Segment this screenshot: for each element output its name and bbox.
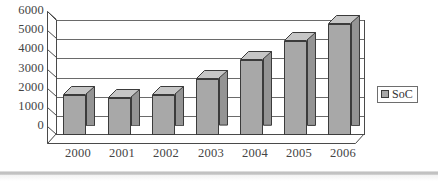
y-axis-tick-mark: [47, 126, 57, 135]
y-axis-tick-mark: [47, 30, 57, 39]
x-axis-tick-labels: 2000200120022003200420052006: [47, 146, 367, 166]
bar-top-face: [63, 86, 95, 95]
x-axis-tick-label: 2005: [286, 146, 312, 160]
bar-slot: [63, 11, 86, 135]
chart-legend: SoC: [377, 86, 418, 103]
bar-2005[interactable]: [284, 32, 307, 135]
y-axis-tick-label: 4000: [0, 42, 44, 54]
bar-slot: [108, 11, 131, 135]
y-axis-tick-mark: [47, 11, 57, 20]
bar-2004[interactable]: [240, 51, 263, 135]
chart-figure: 0100020003000400050006000 20002001200220…: [0, 0, 438, 181]
x-axis-tick-label: 2000: [65, 146, 91, 160]
y-axis-tick-label: 6000: [0, 4, 44, 16]
x-axis-tick-label: 2003: [198, 146, 224, 160]
bar-2001[interactable]: [108, 89, 131, 135]
bar-top-face: [196, 70, 228, 79]
bar-side-face: [263, 51, 272, 126]
y-axis-tick-label: 2000: [0, 81, 44, 93]
bar-slot: [328, 11, 351, 135]
bar-slot: [196, 11, 219, 135]
y-axis-tick-mark: [47, 107, 57, 116]
bar-front-face: [196, 79, 219, 135]
bar-2000[interactable]: [63, 86, 86, 135]
bar-front-face: [328, 24, 351, 135]
y-axis-tick-mark: [47, 49, 57, 58]
y-axis-tick-label: 0: [0, 119, 44, 131]
footer-separator-fade: [0, 175, 438, 181]
bar-top-face: [328, 15, 360, 24]
bar-front-face: [63, 95, 86, 135]
bar-2003[interactable]: [196, 70, 219, 135]
bar-top-face: [240, 51, 272, 60]
bar-slot: [240, 11, 263, 135]
legend-swatch-icon: [381, 90, 389, 98]
bar-front-face: [152, 95, 175, 135]
bar-top-face: [108, 89, 140, 98]
x-axis-tick-label: 2002: [153, 146, 179, 160]
bar-slot: [284, 11, 307, 135]
bar-slot: [152, 11, 175, 135]
plot-area: [47, 11, 365, 144]
y-axis-tick-mark: [47, 69, 57, 78]
bar-2002[interactable]: [152, 86, 175, 135]
bar-side-face: [351, 15, 360, 126]
bar-top-face: [284, 32, 316, 41]
y-axis-tick-mark: [47, 88, 57, 97]
x-axis-tick-label: 2004: [242, 146, 268, 160]
y-axis-tick-labels: 0100020003000400050006000: [0, 10, 44, 142]
bar-front-face: [240, 60, 263, 135]
bar-group: [56, 11, 365, 135]
x-axis-tick-label: 2006: [330, 146, 356, 160]
bar-side-face: [307, 32, 316, 126]
y-axis-tick-label: 3000: [0, 62, 44, 74]
bar-front-face: [284, 41, 307, 135]
y-axis-tick-label: 1000: [0, 100, 44, 112]
x-axis-tick-label: 2001: [109, 146, 135, 160]
bar-2006[interactable]: [328, 15, 351, 135]
bar-top-face: [152, 86, 184, 95]
y-axis-tick-label: 5000: [0, 23, 44, 35]
bar-front-face: [108, 98, 131, 135]
legend-label: SoC: [392, 88, 413, 100]
